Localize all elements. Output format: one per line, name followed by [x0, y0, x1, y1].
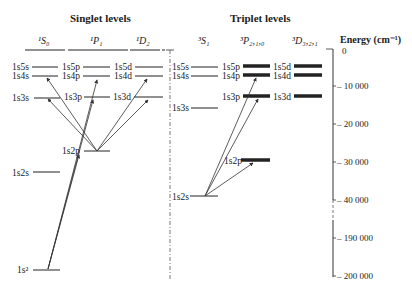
level-label: 1s4s — [172, 71, 189, 81]
level-label: 1s3p — [64, 92, 82, 102]
level-label: 1s3p — [222, 92, 240, 102]
level-label: 1s3s — [12, 93, 29, 103]
level-label: 1s2p — [224, 156, 242, 166]
level-label: 1s4d — [114, 71, 132, 81]
tick-label: – 20 000 — [336, 119, 369, 129]
tick-label: 0 — [342, 46, 347, 56]
tick-label: – 10 000 — [336, 81, 369, 91]
tick-label: – 30 000 — [336, 157, 369, 167]
tick-label: – 40 000 — [336, 195, 369, 205]
header-1S0: ¹S₀ — [38, 35, 50, 46]
header-3S1: ³S₁ — [198, 35, 209, 46]
header-1D2: ¹D₂ — [136, 35, 150, 46]
tick-label: – 200 000 — [336, 271, 374, 281]
level-label: 1s2s — [12, 168, 29, 178]
transition-arrow — [48, 80, 97, 269]
level-label: 1s3s — [172, 103, 189, 113]
level-label: 1s4p — [222, 71, 240, 81]
level-label: 1s2s — [172, 192, 189, 202]
transition-arrow — [97, 79, 147, 151]
level-label: 1s4d — [273, 71, 291, 81]
transition-arrow — [205, 99, 258, 196]
level-label: 1s3d — [113, 92, 131, 102]
energy-level-diagram: Singlet levels Triplet levels ¹S₀ ¹P₁ ¹D… — [0, 0, 412, 293]
header-3P210: ³P₂,₁,₀ — [240, 35, 265, 46]
header-3D321: ³D₃,₂,₁ — [292, 35, 318, 46]
tick-label: – 190 000 — [336, 233, 374, 243]
level-label: 1s3d — [273, 92, 291, 102]
level-label: 1s² — [17, 265, 28, 275]
level-label: 1s4p — [62, 71, 80, 81]
level-label: 1s4s — [12, 71, 29, 81]
axis-title: Energy (cm⁻¹) — [340, 34, 401, 46]
triplet-title: Triplet levels — [230, 12, 291, 24]
singlet-title: Singlet levels — [70, 12, 132, 24]
transition-arrow — [97, 100, 148, 151]
header-1P1: ¹P₁ — [90, 35, 103, 46]
